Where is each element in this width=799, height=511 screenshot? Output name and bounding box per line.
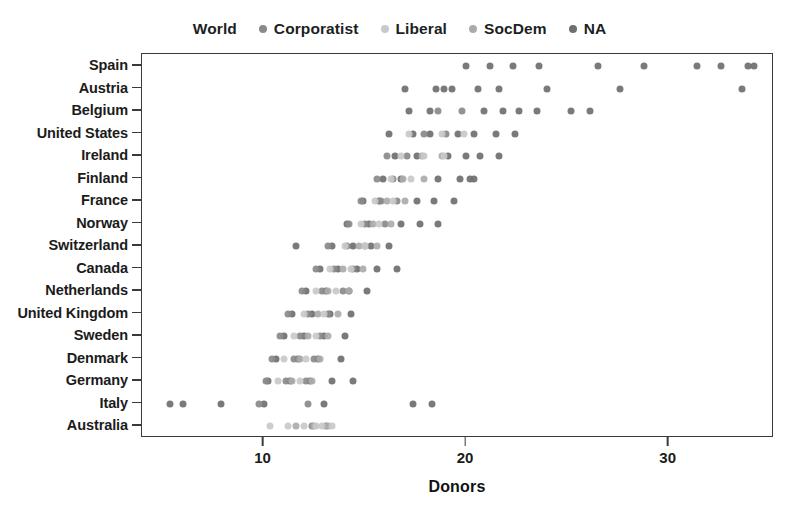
data-point bbox=[386, 243, 393, 250]
y-tick-canada: Canada bbox=[76, 260, 141, 276]
data-point bbox=[586, 108, 593, 115]
x-tick-20: 20 bbox=[457, 437, 474, 466]
data-point bbox=[495, 153, 502, 160]
data-point bbox=[341, 243, 348, 250]
data-point bbox=[337, 355, 344, 362]
data-point bbox=[694, 63, 701, 70]
data-point bbox=[325, 333, 332, 340]
legend-item-socdem: SocDem bbox=[469, 20, 547, 38]
data-point bbox=[463, 63, 470, 70]
legend-label: SocDem bbox=[484, 20, 547, 38]
data-point bbox=[276, 333, 283, 340]
data-point bbox=[440, 153, 447, 160]
data-point bbox=[313, 288, 320, 295]
data-point bbox=[373, 243, 380, 250]
data-point bbox=[262, 378, 269, 385]
x-tick-label: 20 bbox=[457, 449, 474, 466]
chart-root: WorldCorporatistLiberalSocDemNA SpainAus… bbox=[0, 0, 799, 511]
data-point bbox=[402, 85, 409, 92]
y-tick-spain: Spain bbox=[89, 57, 141, 73]
data-point bbox=[297, 378, 304, 385]
y-tick-mark bbox=[132, 199, 141, 201]
data-point bbox=[426, 108, 433, 115]
legend-label: World bbox=[193, 20, 237, 38]
data-point bbox=[534, 108, 541, 115]
data-point bbox=[329, 378, 336, 385]
data-point bbox=[327, 265, 334, 272]
data-point bbox=[414, 198, 421, 205]
y-tick-mark bbox=[132, 244, 141, 246]
data-point bbox=[292, 243, 299, 250]
y-tick-mark bbox=[132, 154, 141, 156]
legend-label: Liberal bbox=[396, 20, 448, 38]
y-tick-austria: Austria bbox=[79, 80, 141, 96]
data-point bbox=[325, 243, 332, 250]
y-tick-label: Belgium bbox=[71, 102, 128, 118]
y-tick-germany: Germany bbox=[66, 372, 141, 388]
data-point bbox=[718, 63, 725, 70]
y-tick-label: Norway bbox=[76, 215, 128, 231]
y-tick-label: Spain bbox=[89, 57, 128, 73]
data-point bbox=[303, 355, 310, 362]
data-point bbox=[475, 85, 482, 92]
data-point bbox=[373, 175, 380, 182]
y-tick-label: Canada bbox=[76, 260, 128, 276]
data-point bbox=[313, 265, 320, 272]
y-tick-united-states: United States bbox=[37, 125, 141, 141]
data-point bbox=[515, 108, 522, 115]
data-point bbox=[461, 130, 468, 137]
legend-swatch-icon bbox=[259, 25, 267, 33]
data-point bbox=[339, 265, 346, 272]
data-point bbox=[463, 153, 470, 160]
y-tick-mark bbox=[132, 109, 141, 111]
data-point bbox=[321, 310, 328, 317]
y-tick-label: Netherlands bbox=[45, 282, 128, 298]
data-point bbox=[420, 175, 427, 182]
y-tick-label: Sweden bbox=[74, 327, 128, 343]
legend-item-corporatist: Corporatist bbox=[259, 20, 359, 38]
data-point bbox=[284, 423, 291, 430]
data-point bbox=[325, 288, 332, 295]
data-point bbox=[256, 400, 263, 407]
data-point bbox=[416, 220, 423, 227]
data-point bbox=[420, 153, 427, 160]
y-tick-mark bbox=[132, 177, 141, 179]
y-tick-label: Germany bbox=[66, 372, 128, 388]
data-point bbox=[179, 400, 186, 407]
data-point bbox=[402, 198, 409, 205]
data-point bbox=[487, 63, 494, 70]
data-point bbox=[357, 220, 364, 227]
y-tick-belgium: Belgium bbox=[71, 102, 141, 118]
y-tick-mark bbox=[132, 379, 141, 381]
data-point bbox=[440, 85, 447, 92]
data-point bbox=[218, 400, 225, 407]
data-point bbox=[388, 220, 395, 227]
y-tick-label: France bbox=[81, 192, 128, 208]
data-point bbox=[477, 153, 484, 160]
data-point bbox=[376, 220, 383, 227]
data-point bbox=[167, 400, 174, 407]
data-point bbox=[400, 175, 407, 182]
legend-label: Corporatist bbox=[274, 20, 359, 38]
y-tick-label: Denmark bbox=[67, 350, 128, 366]
data-point bbox=[319, 423, 326, 430]
data-point bbox=[373, 265, 380, 272]
data-point bbox=[268, 355, 275, 362]
data-point bbox=[361, 243, 368, 250]
data-point bbox=[432, 85, 439, 92]
y-tick-mark bbox=[132, 424, 141, 426]
y-tick-label: Switzerland bbox=[49, 237, 128, 253]
y-tick-netherlands: Netherlands bbox=[45, 282, 141, 298]
data-point bbox=[309, 378, 316, 385]
data-point bbox=[495, 85, 502, 92]
data-point bbox=[471, 175, 478, 182]
x-axis: 102030 bbox=[141, 437, 773, 477]
y-tick-mark bbox=[132, 289, 141, 291]
data-point bbox=[448, 85, 455, 92]
legend-item-na: NA bbox=[569, 20, 607, 38]
data-point bbox=[594, 63, 601, 70]
y-tick-mark bbox=[132, 334, 141, 336]
y-tick-label: Italy bbox=[99, 395, 128, 411]
x-tick-mark bbox=[464, 437, 466, 446]
y-tick-united-kingdom: United Kingdom bbox=[17, 305, 141, 321]
